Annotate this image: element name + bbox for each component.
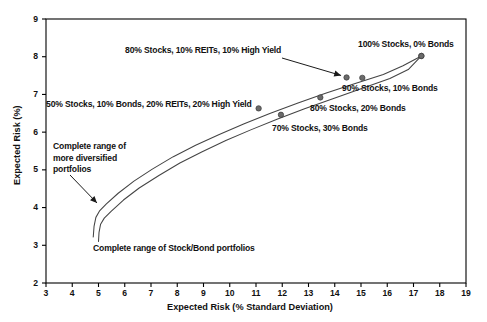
y-tick-label-7: 7: [20, 89, 38, 99]
y-tick-label-8: 8: [20, 51, 38, 61]
y-tick-label-3: 3: [20, 240, 38, 250]
annotation-80-20: 80% Stocks, 20% Bonds: [310, 103, 406, 115]
annotation-100-stocks: 100% Stocks, 0% Bonds: [358, 39, 454, 51]
data-point-1-1: [318, 95, 323, 100]
annotation-range-stockbond: Complete range of Stock/Bond portfolios: [93, 243, 255, 255]
data-point-1-3: [419, 53, 424, 58]
y-axis-ticks: [42, 19, 46, 283]
data-point-1-2: [360, 75, 365, 80]
annotation-50-stocks-blend: 50% Stocks, 10% Bonds, 20% REITs, 20% Hi…: [46, 99, 252, 111]
annotation-range-diversified-line3: portfolios: [53, 164, 91, 176]
y-tick-label-2: 2: [20, 278, 38, 288]
x-axis-title: Expected Risk (% Standard Deviation): [167, 302, 333, 312]
y-tick-label-6: 6: [20, 127, 38, 137]
data-point-0-1: [344, 75, 349, 80]
data-point-1-0: [278, 112, 283, 117]
x-tick-label-19: 19: [446, 288, 486, 298]
data-point-0-0: [256, 106, 261, 111]
annotation-90-10: 90% Stocks, 10% Bonds: [342, 83, 438, 95]
annotation-range-diversified-line2: more diversified: [53, 153, 117, 165]
y-tick-label-9: 9: [20, 14, 38, 24]
y-tick-label-4: 4: [20, 202, 38, 212]
annotation-70-30: 70% Stocks, 30% Bonds: [272, 123, 368, 135]
annotation-diversified-blend: 80% Stocks, 10% REITs, 10% High Yield: [125, 45, 281, 57]
x-axis-ticks: [46, 283, 466, 287]
y-tick-label-5: 5: [20, 164, 38, 174]
annotation-range-diversified-line1: Complete range of: [53, 141, 126, 153]
chart-container: Expected Risk (% Standard Deviation) Exp…: [0, 0, 487, 322]
